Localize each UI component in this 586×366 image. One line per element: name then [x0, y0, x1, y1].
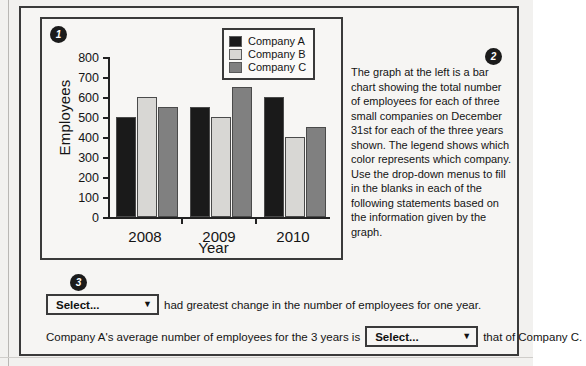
- chart-bar: [116, 117, 136, 217]
- chart-x-tick-label: 2008: [128, 228, 161, 245]
- chart-y-tick: [103, 217, 108, 219]
- chart-x-tick-label: 2009: [202, 228, 235, 245]
- chart-y-tick-label: 0: [92, 212, 99, 225]
- chart-x-tick: [181, 219, 183, 224]
- chart-y-tick-label: 500: [78, 112, 99, 125]
- comparison-select-dropdown[interactable]: Select... ▼: [365, 326, 478, 347]
- statements-section: 3 Select... ▼ had greatest change in the…: [40, 268, 507, 346]
- statement-row-2: Company A's average number of employees …: [46, 326, 586, 347]
- legend-color-swatch: [229, 36, 242, 47]
- legend-row: Company B: [229, 48, 306, 60]
- chart-bar: [137, 97, 157, 217]
- legend-color-swatch: [229, 49, 242, 60]
- legend-color-swatch: [229, 62, 242, 73]
- chart-y-tick-label: 200: [78, 172, 99, 185]
- exercise-panel: 1 Employees Year 01002003004005006007008…: [19, 6, 519, 356]
- chart-card: 1 Employees Year 01002003004005006007008…: [40, 17, 343, 260]
- legend-row: Company C: [229, 61, 306, 73]
- chevron-down-icon: ▼: [462, 332, 471, 341]
- chevron-down-icon: ▼: [143, 300, 152, 309]
- chart-y-tick: [103, 177, 108, 179]
- chart-bar: [306, 127, 326, 217]
- legend-label: Company B: [248, 48, 305, 60]
- chart-y-tick: [103, 197, 108, 199]
- chart-y-tick-label: 400: [78, 132, 99, 145]
- chart-y-tick-label: 600: [78, 92, 99, 105]
- legend-label: Company A: [248, 35, 305, 47]
- chart-bar: [264, 97, 284, 217]
- statement-2-suffix-text: that of Company C.: [478, 331, 586, 343]
- chart-x-tick: [255, 219, 257, 224]
- chart-y-tick-label: 100: [78, 192, 99, 205]
- comparison-select-value: Select...: [375, 331, 418, 343]
- page-edge-line-left: [8, 0, 9, 366]
- chart-plot-wrapper: Employees Year 0100200300400500600700800…: [42, 19, 341, 258]
- badge-2: 2: [485, 48, 502, 65]
- legend-row: Company A: [229, 35, 306, 47]
- instructions-paragraph: The graph at the left is a bar chart sho…: [351, 65, 511, 239]
- statement-1-suffix-text: had greatest change in the number of emp…: [159, 299, 486, 311]
- page-edge-line-bottom: [0, 357, 533, 358]
- statement-row-1: Select... ▼ had greatest change in the n…: [46, 294, 486, 315]
- chart-y-axis-title: Employees: [56, 58, 73, 178]
- chart-bar: [285, 137, 305, 217]
- chart-y-tick: [103, 157, 108, 159]
- chart-y-axis-line: [108, 57, 110, 219]
- chart-y-tick: [103, 117, 108, 119]
- chart-x-tick-label: 2010: [276, 228, 309, 245]
- chart-bar: [190, 107, 210, 217]
- chart-y-tick-label: 300: [78, 152, 99, 165]
- chart-y-tick: [103, 97, 108, 99]
- chart-bar: [158, 107, 178, 217]
- badge-3: 3: [70, 274, 87, 291]
- chart-legend: Company ACompany BCompany C: [222, 28, 315, 80]
- statement-2-prefix-text: Company A's average number of employees …: [46, 331, 365, 343]
- badge-1: 1: [50, 26, 67, 43]
- chart-bar: [232, 87, 252, 217]
- chart-bar: [211, 117, 231, 217]
- chart-plot-area: 0100200300400500600700800200820092010: [108, 57, 330, 219]
- chart-x-axis-line: [108, 217, 330, 219]
- chart-y-tick: [103, 57, 108, 59]
- company-select-value: Select...: [56, 299, 99, 311]
- chart-y-tick-label: 700: [78, 72, 99, 85]
- chart-y-tick-label: 800: [78, 52, 99, 65]
- chart-y-tick: [103, 77, 108, 79]
- legend-label: Company C: [248, 61, 306, 73]
- chart-y-tick: [103, 137, 108, 139]
- company-select-dropdown[interactable]: Select... ▼: [46, 294, 159, 315]
